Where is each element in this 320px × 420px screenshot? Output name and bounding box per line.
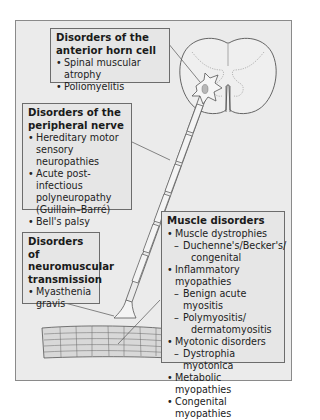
box-title: peripheral nerve [28, 120, 126, 133]
sub-list-item: Dystrophia myotonica [167, 348, 279, 372]
box-title: neuromuscular [28, 261, 94, 274]
list-item: Hereditary motor [28, 132, 126, 144]
box-title: anterior horn cell [56, 45, 164, 58]
box-title: transmission [28, 274, 94, 287]
neuromuscular-transmission-disorders-box: Disorders of neuromuscular transmission … [22, 232, 100, 304]
list-item-continuation: gravis [28, 298, 94, 310]
sub-list-item: Polymyositis/ [167, 312, 279, 324]
list-item: Poliomyelitis [56, 81, 164, 93]
list-item: Myasthenia [28, 286, 94, 298]
muscle-disorders-box: Muscle disorders Muscle dystrophies Duch… [161, 211, 285, 363]
list-item-continuation: sensory neuropathies [28, 144, 126, 168]
list-item: Acute post-infectious [28, 168, 126, 192]
anterior-horn-disorders-box: Disorders of the anterior horn cell Spin… [50, 28, 170, 83]
list-item: Bell's palsy [28, 216, 126, 228]
list-item: Spinal muscular atrophy [56, 57, 164, 81]
list-item: Congenital myopathies [167, 396, 279, 420]
spinal-cord-icon [180, 38, 276, 113]
list-item-continuation: (Guillain–Barré) [28, 204, 126, 216]
box-title: Disorders of the [56, 32, 164, 45]
sub-list-item-continuation: congenital [167, 252, 279, 264]
sub-list-item: Duchenne's/Becker's/ [167, 240, 279, 252]
sub-list-item-continuation: dermatomyositis [167, 324, 279, 336]
list-item-continuation: polyneuropathy [28, 192, 126, 204]
sub-list-item: Benign acute myositis [167, 288, 279, 312]
list-item: Inflammatory myopathies [167, 264, 279, 288]
box-title: Muscle disorders [167, 215, 279, 228]
list-item: Myotonic disorders [167, 336, 279, 348]
list-item: Metabolic myopathies [167, 372, 279, 396]
list-item: Muscle dystrophies [167, 228, 279, 240]
box-title: Disorders of the [28, 107, 126, 120]
peripheral-nerve-disorders-box: Disorders of the peripheral nerve Heredi… [22, 103, 132, 210]
neuromuscular-junction-icon [114, 300, 136, 318]
box-title: Disorders of [28, 236, 94, 261]
